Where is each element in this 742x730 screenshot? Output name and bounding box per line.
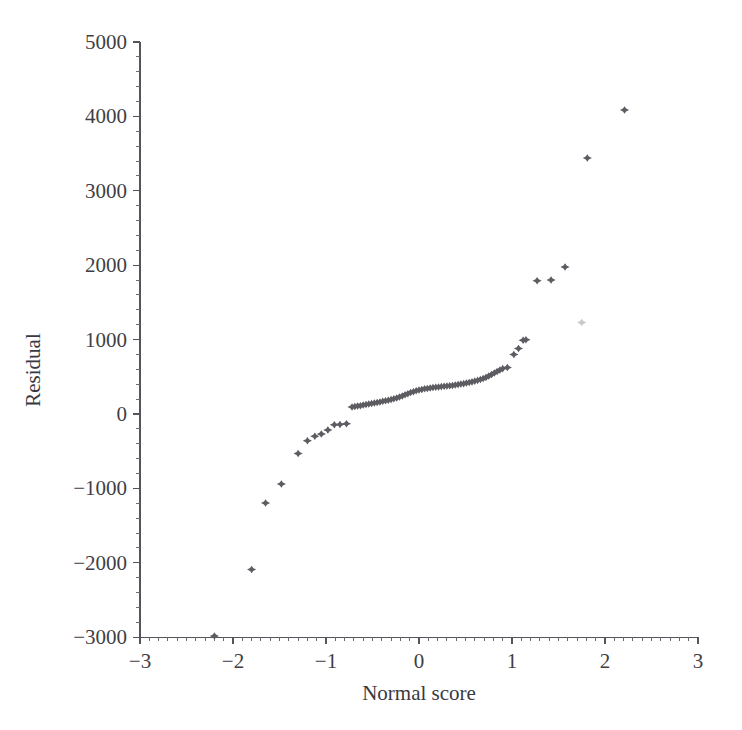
y-tick-label: 5000 — [85, 30, 127, 54]
y-tick-label: 2000 — [85, 253, 127, 277]
x-tick-label: 2 — [600, 649, 611, 673]
data-markers-layer — [210, 106, 629, 640]
plot-canvas: −3000−2000−1000010002000300040005000−3−2… — [0, 0, 742, 730]
faint-mark — [577, 319, 586, 327]
axes-layer — [140, 42, 698, 637]
x-tick-label: 3 — [693, 649, 704, 673]
x-axis-title: Normal score — [362, 681, 476, 705]
data-point-marker — [335, 421, 344, 429]
x-tick-label: 1 — [507, 649, 518, 673]
data-point-marker — [514, 345, 523, 353]
y-tick-label: 3000 — [85, 179, 127, 203]
data-point-marker — [303, 437, 312, 445]
data-point-marker — [342, 420, 351, 428]
data-point-marker — [247, 566, 256, 574]
x-tick-label: −3 — [129, 649, 151, 673]
faint-marker-group — [577, 319, 586, 327]
y-tick-label: 1000 — [85, 328, 127, 352]
data-point-marker — [210, 632, 219, 640]
data-point-marker — [261, 499, 270, 507]
y-tick-label: 0 — [117, 402, 128, 426]
data-point-marker — [583, 154, 592, 162]
axis-titles-layer: Normal score Residual — [21, 333, 476, 705]
y-axis-title: Residual — [21, 333, 45, 407]
data-point-marker — [546, 276, 555, 284]
tick-labels-layer: −3000−2000−1000010002000300040005000−3−2… — [73, 30, 703, 673]
data-point-marker — [533, 277, 542, 285]
data-series-0 — [210, 106, 629, 640]
x-tick-label: −1 — [315, 649, 337, 673]
y-tick-label: −3000 — [73, 625, 127, 649]
ticks-layer — [133, 42, 698, 644]
data-point-marker — [294, 450, 303, 458]
data-point-marker — [277, 480, 286, 488]
data-point-marker — [620, 106, 629, 114]
normal-probability-plot-figure: −3000−2000−1000010002000300040005000−3−2… — [0, 0, 742, 730]
x-tick-label: −2 — [222, 649, 244, 673]
y-tick-label: −2000 — [73, 551, 127, 575]
y-tick-label: −1000 — [73, 476, 127, 500]
data-point-marker — [509, 351, 518, 359]
y-tick-label: 4000 — [85, 104, 127, 128]
x-tick-label: 0 — [414, 649, 425, 673]
data-point-marker — [323, 426, 332, 434]
data-point-marker — [560, 263, 569, 271]
